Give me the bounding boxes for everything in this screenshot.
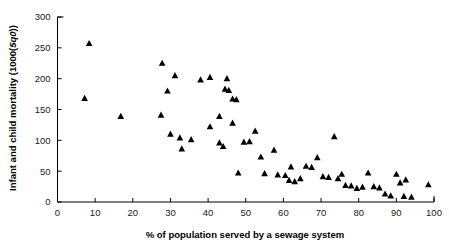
y-tick-label: 200 bbox=[35, 73, 51, 84]
x-tick-label: 20 bbox=[128, 207, 139, 218]
data-point-marker bbox=[338, 171, 345, 177]
x-tick-label: 90 bbox=[391, 207, 402, 218]
data-point-marker bbox=[376, 184, 383, 190]
data-point-marker bbox=[216, 139, 223, 145]
data-point-marker bbox=[224, 75, 231, 81]
x-tick-label: 10 bbox=[90, 207, 101, 218]
data-point-marker bbox=[167, 131, 174, 137]
data-point-marker bbox=[229, 119, 236, 125]
data-points-group bbox=[81, 40, 431, 200]
data-point-marker bbox=[282, 172, 289, 178]
data-point-marker bbox=[188, 136, 195, 142]
data-point-marker bbox=[274, 171, 281, 177]
data-point-marker bbox=[408, 193, 415, 199]
x-tick-label: 30 bbox=[165, 207, 176, 218]
x-tick-label: 40 bbox=[203, 207, 214, 218]
data-point-marker bbox=[164, 87, 171, 93]
x-tick-label: 50 bbox=[240, 207, 251, 218]
y-tick-label: 300 bbox=[35, 11, 51, 22]
y-tick-label: 50 bbox=[40, 166, 51, 177]
data-point-marker bbox=[172, 72, 179, 78]
data-point-marker bbox=[320, 173, 327, 179]
y-tick-label: 100 bbox=[35, 135, 51, 146]
data-point-marker bbox=[197, 76, 204, 82]
data-point-marker bbox=[235, 169, 242, 175]
data-point-marker bbox=[271, 147, 278, 153]
y-tick-labels: 050100150200250300 bbox=[35, 11, 51, 207]
x-tick-labels: 0102030405060708090100 bbox=[55, 207, 442, 218]
data-point-marker bbox=[370, 183, 377, 189]
data-point-marker bbox=[158, 111, 165, 117]
axes-group bbox=[58, 17, 435, 202]
data-point-marker bbox=[86, 40, 93, 46]
data-point-marker bbox=[207, 74, 214, 80]
data-point-marker bbox=[402, 176, 409, 182]
data-point-marker bbox=[401, 193, 408, 199]
x-tick-label: 80 bbox=[353, 207, 364, 218]
data-point-marker bbox=[397, 179, 404, 185]
data-point-marker bbox=[382, 190, 389, 196]
y-tick-label: 0 bbox=[45, 196, 50, 207]
data-point-marker bbox=[308, 164, 315, 170]
data-point-marker bbox=[261, 170, 268, 176]
y-tick-label: 150 bbox=[35, 104, 51, 115]
tick-marks-group bbox=[58, 17, 435, 202]
x-tick-label: 100 bbox=[426, 207, 442, 218]
x-tick-label: 70 bbox=[316, 207, 327, 218]
data-point-marker bbox=[257, 153, 264, 159]
data-point-marker bbox=[81, 95, 88, 101]
data-point-marker bbox=[425, 181, 432, 187]
data-point-marker bbox=[303, 163, 310, 169]
data-point-marker bbox=[387, 192, 394, 198]
data-point-marker bbox=[246, 138, 253, 144]
data-point-marker bbox=[325, 174, 332, 180]
data-point-marker bbox=[159, 60, 166, 66]
data-point-marker bbox=[207, 123, 214, 129]
y-axis-title: Infant and child mortality (1000(5q0)) bbox=[7, 25, 18, 191]
x-tick-label: 0 bbox=[55, 207, 60, 218]
data-point-marker bbox=[393, 171, 400, 177]
data-point-marker bbox=[342, 182, 349, 188]
data-point-marker bbox=[354, 185, 361, 191]
data-point-marker bbox=[252, 127, 259, 133]
data-point-marker bbox=[331, 133, 338, 139]
data-point-marker bbox=[348, 182, 355, 188]
x-axis-title: % of population served by a sewage syste… bbox=[146, 229, 345, 240]
axis-spines bbox=[58, 17, 435, 202]
x-tick-label: 60 bbox=[278, 207, 289, 218]
scatter-plot-figure: 050100150200250300 010203040506070809010… bbox=[0, 0, 449, 244]
data-point-marker bbox=[288, 163, 295, 169]
data-point-marker bbox=[291, 178, 298, 184]
data-point-marker bbox=[216, 113, 223, 119]
data-point-marker bbox=[178, 145, 185, 151]
data-point-marker bbox=[177, 134, 184, 140]
plot-canvas: 050100150200250300 010203040506070809010… bbox=[0, 0, 449, 244]
data-point-marker bbox=[359, 184, 366, 190]
data-point-marker bbox=[117, 113, 124, 119]
data-point-marker bbox=[314, 154, 321, 160]
data-point-marker bbox=[241, 139, 248, 145]
y-tick-label: 250 bbox=[35, 42, 51, 53]
data-point-marker bbox=[365, 169, 372, 175]
data-point-marker bbox=[297, 175, 304, 181]
